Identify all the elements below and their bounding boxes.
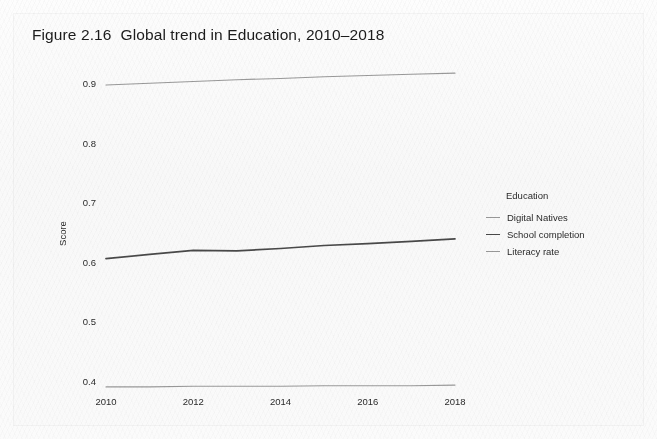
legend-item-label: School completion <box>507 229 585 240</box>
x-tick-label: 2010 <box>86 396 126 407</box>
chart-legend: Education Digital NativesSchool completi… <box>486 190 585 260</box>
series-line-0 <box>106 385 455 387</box>
y-tick-label: 0.7 <box>62 197 96 208</box>
y-tick-label: 0.6 <box>62 257 96 268</box>
legend-line-swatch-icon <box>486 251 500 252</box>
y-tick-label: 0.9 <box>62 78 96 89</box>
legend-item[interactable]: Digital Natives <box>486 209 585 226</box>
figure-container: Figure 2.16Global trend in Education, 20… <box>0 0 657 439</box>
figure-title: Figure 2.16Global trend in Education, 20… <box>32 26 384 44</box>
legend-title: Education <box>506 190 585 201</box>
series-line-2 <box>106 73 455 85</box>
series-line-1 <box>106 239 455 259</box>
series-layer <box>106 73 455 387</box>
legend-item[interactable]: School completion <box>486 226 585 243</box>
legend-items: Digital NativesSchool completionLiteracy… <box>486 209 585 260</box>
x-tick-label: 2018 <box>435 396 475 407</box>
legend-item[interactable]: Literacy rate <box>486 243 585 260</box>
legend-line-swatch-icon <box>486 217 500 218</box>
figure-title-text: Global trend in Education, 2010–2018 <box>121 26 385 43</box>
x-tick-label: 2016 <box>348 396 388 407</box>
y-axis-title: Score <box>57 221 68 246</box>
legend-item-label: Digital Natives <box>507 212 568 223</box>
x-tick-label: 2012 <box>173 396 213 407</box>
legend-item-label: Literacy rate <box>507 246 559 257</box>
x-tick-label: 2014 <box>261 396 301 407</box>
legend-line-swatch-icon <box>486 234 500 235</box>
y-tick-label: 0.5 <box>62 316 96 327</box>
y-tick-label: 0.4 <box>62 376 96 387</box>
y-tick-label: 0.8 <box>62 138 96 149</box>
figure-number: Figure 2.16 <box>32 26 112 43</box>
